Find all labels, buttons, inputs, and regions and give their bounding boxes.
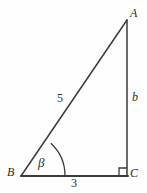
hypotenuse-line bbox=[21, 20, 127, 176]
vertex-label-a: A bbox=[130, 7, 137, 19]
vertex-label-c: C bbox=[130, 167, 138, 179]
right-angle-marker bbox=[119, 168, 127, 176]
angle-beta-label: β bbox=[38, 156, 44, 169]
triangle-drawing bbox=[0, 0, 147, 193]
base-leg-length-label: 3 bbox=[71, 177, 77, 189]
triangle-figure: A B C 5 b 3 β bbox=[0, 0, 147, 193]
angle-arc-beta bbox=[51, 143, 65, 176]
vertical-leg-length-label: b bbox=[132, 91, 138, 103]
vertex-label-b: B bbox=[7, 166, 14, 178]
hypotenuse-length-label: 5 bbox=[57, 92, 63, 104]
